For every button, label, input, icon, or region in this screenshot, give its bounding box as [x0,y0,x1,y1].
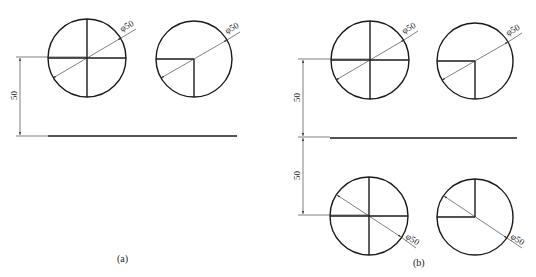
diameter-label-b2: φ50 [504,22,522,38]
circle-b4-quarter-cutout: φ50 [437,179,527,255]
vertical-dimension-b: 50 50 [292,59,370,215]
vertical-dimension-a: 50 [9,57,87,136]
circle-a1-full-cross: φ50 [48,18,136,97]
dimension-label-b-bottom: 50 [292,171,302,181]
diameter-label-a1: φ50 [118,18,136,34]
caption-b: (b) [413,257,425,269]
circle-b2-quarter-cutout: φ50 [437,22,522,99]
circle-b1-full-cross: φ50 [331,20,418,99]
circle-b3-full-cross: φ50 [330,177,422,255]
diameter-label-b4: φ50 [509,231,527,247]
dimension-label-a: 50 [9,91,19,101]
diameter-label-b3: φ50 [404,231,422,247]
panel-a: φ50 φ50 50 (a) [9,18,241,265]
dimension-label-b-top: 50 [292,93,302,103]
diameter-label-b1: φ50 [400,20,418,36]
circle-a2-quarter-cutout: φ50 [156,20,241,97]
technical-drawing: φ50 φ50 50 (a) φ50 [0,0,536,277]
caption-a: (a) [117,253,128,265]
panel-b: φ50 φ50 φ50 φ50 [292,20,527,269]
